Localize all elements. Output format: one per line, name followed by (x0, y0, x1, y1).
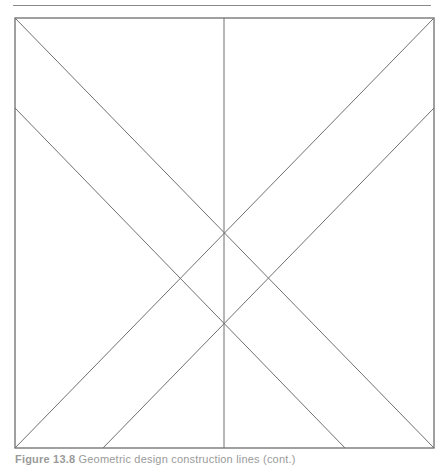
figure-caption: Figure 13.8 Geometric design constructio… (15, 452, 296, 466)
figure-caption-text: Geometric design construction lines (con… (79, 453, 296, 465)
figure-caption-label: Figure 13.8 (15, 453, 75, 465)
construction-lines (15, 18, 434, 448)
